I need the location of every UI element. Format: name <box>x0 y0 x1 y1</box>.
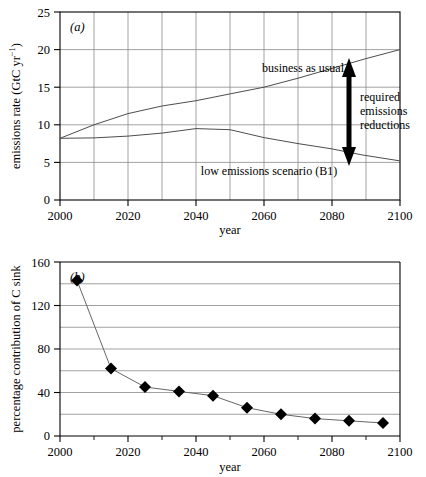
panel-a-ytick-20: 20 <box>38 43 51 57</box>
panel-a-y-tick-labels: 0 5 10 15 20 25 <box>38 6 51 207</box>
panel-a-y-axis-title-tail: ) <box>9 43 23 47</box>
panel-a-ytick-5: 5 <box>44 156 50 170</box>
panel-a-xtick-2000: 2000 <box>48 209 73 223</box>
panel-b-y-tick-labels: 0 40 80 120 160 <box>31 256 50 443</box>
panel-b-ytick-120: 120 <box>31 299 50 313</box>
panel-b-xtick-2060: 2060 <box>252 445 277 459</box>
panel-a-xtick-2040: 2040 <box>184 209 209 223</box>
panel-b-xtick-2100: 2100 <box>388 445 413 459</box>
panel-a-x-ticks <box>60 200 400 206</box>
annot-line-1: required <box>360 90 400 104</box>
annot-line-2: emissions <box>360 104 408 118</box>
panel-b-y-ticks <box>54 262 60 436</box>
chart-panel-b: 0 40 80 120 160 2000 2020 2040 2060 2080… <box>0 240 426 477</box>
panel-b-xtick-2080: 2080 <box>320 445 345 459</box>
panel-b-x-tick-labels: 2000 2020 2040 2060 2080 2100 <box>48 445 413 459</box>
label-business-as-usual: business as usual <box>262 61 345 75</box>
figure-root: 0 5 10 15 20 25 2000 2020 2040 2060 2080… <box>0 0 426 477</box>
panel-a-x-axis-title: year <box>219 223 241 237</box>
panel-a-svg: 0 5 10 15 20 25 2000 2020 2040 2060 2080… <box>0 0 426 255</box>
label-low-emissions-b1: low emissions scenario (B1) <box>201 164 337 178</box>
panel-a-xtick-2020: 2020 <box>116 209 141 223</box>
panel-b-y-axis-title: percentage contribution of C sink <box>9 265 23 433</box>
panel-a-ytick-10: 10 <box>38 118 51 132</box>
panel-a-xtick-2080: 2080 <box>320 209 345 223</box>
panel-a-x-tick-labels: 2000 2020 2040 2060 2080 2100 <box>48 209 413 223</box>
panel-b-x-minor-ticks <box>94 436 366 440</box>
panel-b-xtick-2040: 2040 <box>184 445 209 459</box>
required-emissions-reductions-text: required emissions reductions <box>360 90 410 132</box>
panel-b-ytick-160: 160 <box>31 256 50 270</box>
svg-text:emissions rate (GtC yr−1): emissions rate (GtC yr−1) <box>7 43 23 169</box>
panel-b-ytick-40: 40 <box>38 386 51 400</box>
panel-a-xtick-2100: 2100 <box>388 209 413 223</box>
panel-a-y-axis-title-main: emissions rate (GtC yr <box>9 55 23 169</box>
panel-b-x-axis-title: year <box>219 460 241 474</box>
panel-a-y-ticks <box>54 12 60 200</box>
panel-a-xtick-2060: 2060 <box>252 209 277 223</box>
panel-b-ytick-80: 80 <box>38 342 51 356</box>
panel-b-xtick-2000: 2000 <box>48 445 73 459</box>
panel-a-y-axis-title: emissions rate (GtC yr−1) <box>7 43 23 169</box>
panel-b-xtick-2020: 2020 <box>116 445 141 459</box>
panel-b-y-axis-title-text: percentage contribution of C sink <box>9 265 23 433</box>
annot-line-3: reductions <box>360 118 410 132</box>
panel-a-ytick-25: 25 <box>38 6 51 20</box>
panel-a-letter: (a) <box>70 20 85 34</box>
panel-a-ytick-0: 0 <box>44 193 50 207</box>
chart-panel-a: 0 5 10 15 20 25 2000 2020 2040 2060 2080… <box>0 0 426 255</box>
panel-a-y-axis-title-sup: −1 <box>7 47 17 56</box>
panel-b-ytick-0: 0 <box>44 429 50 443</box>
panel-a-ytick-15: 15 <box>38 81 51 95</box>
panel-b-svg: 0 40 80 120 160 2000 2020 2040 2060 2080… <box>0 240 426 477</box>
